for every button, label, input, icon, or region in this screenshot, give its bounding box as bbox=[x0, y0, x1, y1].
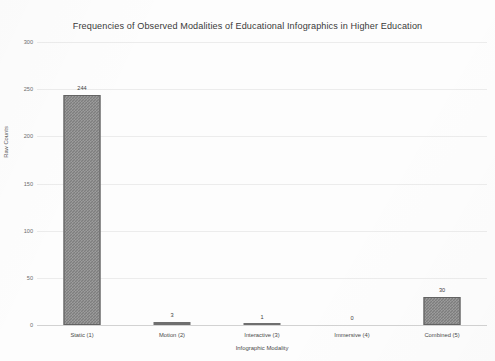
x-tick-label: Interactive (3) bbox=[217, 332, 307, 338]
chart-screenshot: Frequencies of Observed Modalities of Ed… bbox=[0, 0, 495, 361]
bar-slot: 244 bbox=[37, 42, 127, 325]
bar-slot: 1 bbox=[217, 42, 307, 325]
bar-slot: 0 bbox=[307, 42, 397, 325]
y-tick-label: 0 bbox=[0, 322, 33, 328]
y-tick-label: 150 bbox=[0, 181, 33, 187]
x-tick-label: Immersive (4) bbox=[307, 332, 397, 338]
bar-5[interactable] bbox=[424, 297, 461, 325]
x-tick-label: Combined (5) bbox=[397, 332, 487, 338]
bar-value-label: 3 bbox=[170, 312, 173, 318]
y-tick-label: 250 bbox=[0, 86, 33, 92]
plot-area: 24431030 bbox=[37, 42, 487, 325]
x-axis-title: Infographic Modality bbox=[37, 345, 487, 351]
x-tick-label: Static (1) bbox=[37, 332, 127, 338]
y-tick-label: 300 bbox=[0, 39, 33, 45]
bar-3[interactable] bbox=[244, 323, 281, 325]
bar-value-label: 0 bbox=[350, 315, 353, 321]
y-tick-label: 100 bbox=[0, 228, 33, 234]
bar-value-label: 30 bbox=[439, 287, 445, 293]
y-tick-label: 50 bbox=[0, 275, 33, 281]
bar-2[interactable] bbox=[154, 322, 191, 325]
bar-slot: 3 bbox=[127, 42, 217, 325]
chart-title: Frequencies of Observed Modalities of Ed… bbox=[0, 21, 495, 31]
y-axis-title: Raw Counts bbox=[3, 97, 9, 187]
y-tick-label: 200 bbox=[0, 133, 33, 139]
bar-value-label: 244 bbox=[77, 85, 86, 91]
x-tick-label: Motion (2) bbox=[127, 332, 217, 338]
bar-slot: 30 bbox=[397, 42, 487, 325]
bar-1[interactable] bbox=[64, 95, 101, 325]
bar-value-label: 1 bbox=[260, 314, 263, 320]
gridline-0 bbox=[37, 325, 487, 326]
